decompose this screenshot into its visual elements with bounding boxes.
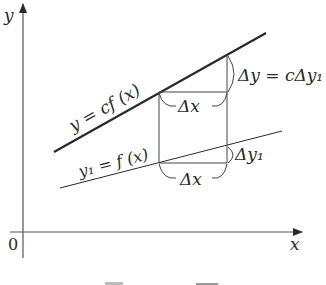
- dy1-brace: [228, 147, 233, 163]
- x-axis-label: x: [290, 234, 300, 254]
- dy-brace: [228, 56, 234, 92]
- y-axis-label: y: [3, 5, 14, 25]
- diagram-canvas: y x 0 Δx Δx Δy = cΔy₁ Δy₁ y = cf (x) y₁ …: [0, 0, 326, 285]
- label-y1-fx: y₁ = f (x): [75, 145, 150, 182]
- upper-dx-label: Δx: [177, 96, 200, 116]
- dy-label: Δy = cΔy₁: [237, 65, 323, 85]
- dy1-label: Δy₁: [234, 144, 264, 164]
- origin-label: 0: [8, 235, 18, 254]
- lower-dx-label: Δx: [179, 169, 202, 189]
